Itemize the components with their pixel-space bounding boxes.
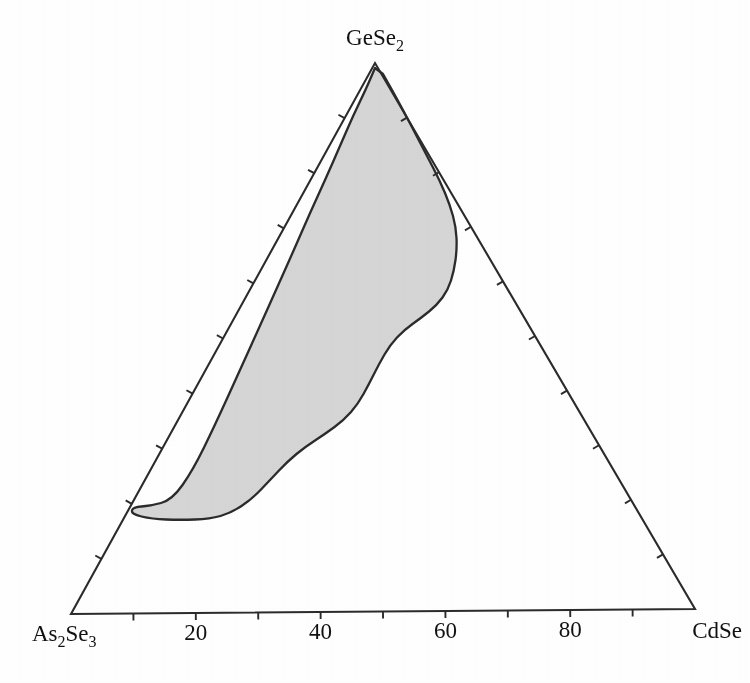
left-label-subscript-1: 2 (58, 633, 66, 650)
glass-forming-region-fill (132, 68, 457, 520)
bottom-axis-tick-label: 60 (434, 618, 457, 643)
axis-tick (625, 500, 631, 504)
glass-forming-region (132, 68, 457, 520)
left-vertex-label-as2se3: As2Se3 (32, 621, 97, 650)
axis-tick (497, 281, 503, 285)
axis-tick (186, 390, 192, 393)
bottom-axis-tick-labels: 20406080 (184, 617, 581, 645)
right-vertex-label-cdse: CdSe (692, 618, 742, 643)
axis-tick (217, 335, 223, 338)
apex-label-subscript: 2 (396, 37, 404, 54)
apex-label-main: GeSe (346, 25, 396, 50)
axis-tick (308, 170, 314, 173)
axis-tick (561, 391, 567, 395)
left-label-mid: Se (66, 621, 89, 646)
axis-tick (465, 227, 471, 231)
axis-tick (657, 554, 663, 558)
left-label-subscript-2: 3 (89, 633, 97, 650)
bottom-axis-tick-label: 80 (559, 617, 582, 642)
ternary-diagram-svg: GeSe2 As2Se3 CdSe 20406080 (0, 0, 750, 683)
axis-tick (278, 225, 284, 228)
axis-tick (338, 115, 344, 118)
bottom-axis-tick-label: 20 (184, 620, 207, 645)
axis-tick (95, 556, 101, 559)
axis-tick (529, 336, 535, 340)
axis-tick (126, 500, 132, 503)
bottom-axis-tick-label: 40 (309, 619, 332, 644)
left-label-main: As (32, 621, 58, 646)
axis-tick (593, 445, 599, 449)
apex-label-gese2: GeSe2 (346, 25, 404, 54)
axis-tick (247, 280, 253, 283)
axis-tick (156, 445, 162, 448)
ternary-diagram-figure: GeSe2 As2Se3 CdSe 20406080 (0, 0, 750, 683)
